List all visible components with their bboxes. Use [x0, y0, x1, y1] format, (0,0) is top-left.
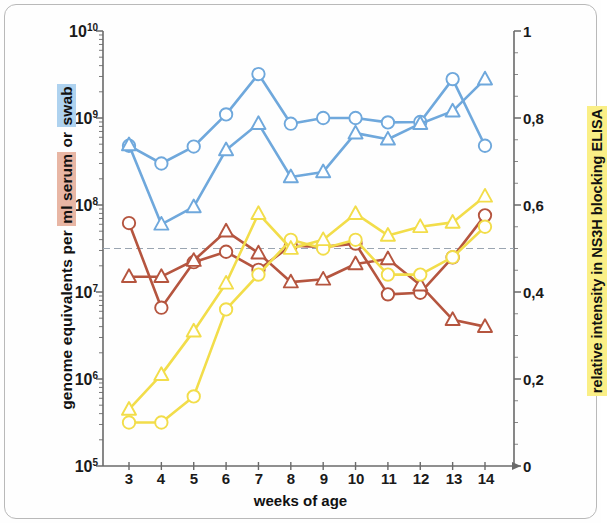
data-point-triangle [349, 126, 363, 139]
y2-tick-0: 0 [523, 458, 531, 475]
data-point-circle [155, 301, 167, 313]
data-point-circle [479, 140, 491, 152]
data-point-circle [220, 303, 232, 315]
data-point-circle [446, 73, 458, 85]
data-point-circle [188, 390, 200, 402]
series-4 [123, 221, 491, 429]
x-tick-13: 13 [441, 470, 467, 487]
data-point-triangle [251, 206, 265, 219]
x-tick-7: 7 [246, 470, 272, 487]
y-axis-title-middle: or [58, 127, 75, 152]
x-tick-10: 10 [343, 470, 369, 487]
data-point-circle [123, 416, 135, 428]
data-point-circle [414, 268, 426, 280]
data-point-circle [349, 112, 361, 124]
data-point-circle [155, 416, 167, 428]
y2-tick-0-2: 0,2 [523, 371, 544, 388]
y-axis-title: genome equivalents per ml serum or swab [58, 37, 76, 457]
data-point-triangle [219, 224, 233, 237]
data-point-triangle [381, 252, 395, 265]
y2-tick-0-8: 0,8 [523, 110, 544, 127]
x-tick-8: 8 [278, 470, 304, 487]
data-point-triangle [251, 116, 265, 129]
x-tick-4: 4 [148, 470, 174, 487]
x-tick-9: 9 [311, 470, 337, 487]
data-point-circle [382, 268, 394, 280]
data-point-circle [349, 234, 361, 246]
data-point-circle [220, 246, 232, 258]
y2-axis-title: relative intensity in NS3H blocking ELIS… [589, 101, 605, 401]
data-point-circle [285, 117, 297, 129]
y-axis-title-swab: swab [57, 84, 76, 127]
y-tick-1e5: 105 [40, 457, 98, 476]
data-point-circle [479, 221, 491, 233]
y-axis-title-serum: ml serum [57, 152, 76, 226]
x-tick-5: 5 [181, 470, 207, 487]
x-tick-6: 6 [213, 470, 239, 487]
data-point-circle [220, 108, 232, 120]
data-point-circle [446, 251, 458, 263]
data-point-triangle [478, 189, 492, 202]
data-point-circle [252, 268, 264, 280]
series-1 [122, 72, 492, 230]
y2-tick-1: 1 [523, 23, 531, 40]
data-point-circle [382, 288, 394, 300]
data-point-triangle [187, 200, 201, 213]
data-point-circle [155, 157, 167, 169]
data-point-triangle [478, 72, 492, 85]
x-tick-3: 3 [116, 470, 142, 487]
series-3 [122, 224, 492, 332]
data-point-triangle [154, 217, 168, 230]
y2-tick-0-4: 0,4 [523, 284, 544, 301]
data-point-circle [123, 217, 135, 229]
data-point-circle [382, 116, 394, 128]
x-axis-title: weeks of age [0, 492, 601, 509]
x-tick-11: 11 [376, 470, 402, 487]
y-axis-title-prefix: genome equivalents per [58, 226, 75, 410]
data-point-triangle [251, 246, 265, 259]
data-point-circle [188, 140, 200, 152]
data-point-triangle [349, 206, 363, 219]
x-tick-14: 14 [473, 470, 499, 487]
y2-tick-0-6: 0,6 [523, 197, 544, 214]
data-point-circle [252, 68, 264, 80]
y2-axis-title-text: relative intensity in NS3H blocking ELIS… [587, 106, 607, 396]
data-point-triangle [219, 276, 233, 289]
data-point-circle [317, 112, 329, 124]
x-tick-12: 12 [408, 470, 434, 487]
